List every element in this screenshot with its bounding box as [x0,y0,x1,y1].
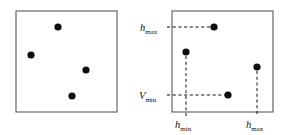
data-point [224,91,231,98]
panel-frame [16,11,117,112]
data-point [68,92,75,99]
axis-label-subscript: min [145,96,156,104]
axis-label-subscript: min [180,125,191,133]
axis-label-subscript: max [145,28,158,36]
figure-root: hmax Vmin hmin hmax [0,0,285,135]
data-point [182,48,189,55]
data-point [27,51,34,58]
data-point [253,63,260,70]
unannotated-point-set-panel [16,11,117,112]
data-point [54,23,61,30]
axis-label-subscript: max [251,125,264,133]
data-point [82,66,89,73]
figure-canvas: hmax Vmin hmin hmax [0,0,285,135]
panel-frame [172,11,273,112]
data-point [210,23,217,30]
